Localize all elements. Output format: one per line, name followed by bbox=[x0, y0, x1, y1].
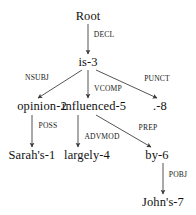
edge-label-decl: DECL bbox=[94, 31, 114, 39]
edge-label-vcomp: VCOMP bbox=[94, 85, 122, 93]
edge-label-nsubj: NSUBJ bbox=[25, 74, 49, 82]
node-johns: John's-7 bbox=[142, 196, 184, 209]
node-influenced: influenced-5 bbox=[62, 100, 126, 113]
edge-label-prep: PREP bbox=[139, 124, 158, 132]
node-by: by-6 bbox=[145, 149, 168, 162]
edge-label-advmod: ADVMOD bbox=[84, 133, 119, 141]
dependency-tree-diagram: Rootis-3opinion-2influenced-5.-8Sarah's-… bbox=[0, 0, 196, 215]
edge-label-poss: POSS bbox=[39, 122, 58, 130]
node-opinion: opinion-2 bbox=[17, 100, 67, 113]
node-root: Root bbox=[76, 10, 101, 23]
node-is: is-3 bbox=[78, 56, 97, 69]
edge-label-punct: PUNCT bbox=[144, 75, 170, 83]
node-sarahs: Sarah's-1 bbox=[9, 149, 56, 162]
edge-label-pobj: POBJ bbox=[169, 171, 187, 179]
node-largely: largely-4 bbox=[64, 149, 110, 162]
node-punct: .-8 bbox=[153, 100, 167, 113]
